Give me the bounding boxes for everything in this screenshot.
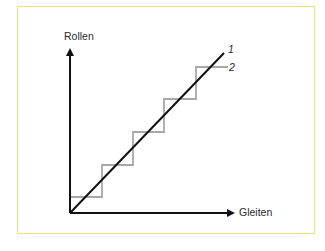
series-1-label: 1 [228,44,234,55]
x-axis-label: Gleiten [239,207,272,218]
series-2-label: 2 [229,62,235,73]
straight-line-1 [70,53,224,213]
y-axis-label: Rollen [64,31,94,42]
diagram-canvas [0,0,325,251]
